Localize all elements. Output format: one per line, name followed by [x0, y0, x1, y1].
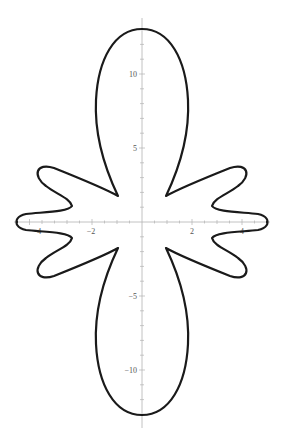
y-tick-label-10: 10	[129, 70, 137, 79]
y-tick-label-5: 5	[133, 144, 137, 153]
x-tick-label-2: 2	[190, 227, 194, 236]
polar-plot: -4 −2 2 4 10 5 −5 −10	[0, 0, 281, 443]
y-tick-label-neg5: −5	[128, 292, 137, 301]
y-tick-label-neg10: −10	[124, 366, 137, 375]
x-tick-label-neg2: −2	[87, 227, 96, 236]
